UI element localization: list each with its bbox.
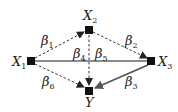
edge-label-beta3: β3 bbox=[124, 74, 138, 91]
edge-label-beta4: β4 bbox=[72, 46, 86, 63]
node-label-x3: X3 bbox=[157, 54, 172, 71]
node-label-x2: X2 bbox=[82, 8, 97, 25]
edge-x3-y bbox=[95, 65, 148, 88]
node-label-x1: X1 bbox=[11, 54, 26, 71]
edge-label-beta6: β6 bbox=[41, 74, 55, 91]
edge-label-beta2: β2 bbox=[124, 33, 138, 50]
node-x3 bbox=[147, 57, 155, 65]
node-label-y: Y bbox=[85, 95, 95, 110]
node-x1 bbox=[27, 57, 35, 65]
edge-label-beta5: β5 bbox=[94, 46, 108, 63]
node-x2 bbox=[85, 26, 93, 34]
edge-label-beta1: β1 bbox=[40, 33, 54, 50]
path-diagram: X1 X2 X3 Y β1 β2 β3 β4 β5 β6 bbox=[0, 0, 178, 112]
node-y bbox=[85, 87, 93, 95]
